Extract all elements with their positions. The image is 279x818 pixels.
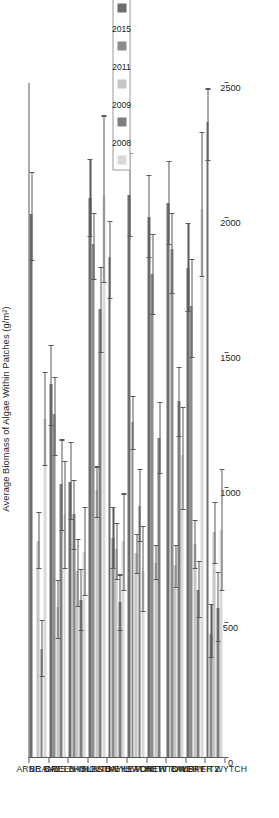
error-bar xyxy=(93,213,94,281)
error-bar-cap xyxy=(117,574,122,575)
legend-label: 2008 xyxy=(111,138,130,148)
error-bar xyxy=(155,545,156,580)
error-bar-cap xyxy=(134,573,139,574)
plot-area: 05001000150020002500 ARNE BAYBRANDS BAYG… xyxy=(28,83,224,758)
bar-group: HOLES BAY xyxy=(87,83,107,758)
error-bar-cap xyxy=(140,526,145,527)
error-bar-cap xyxy=(219,469,224,470)
bar xyxy=(177,401,180,757)
error-bar-cap xyxy=(212,502,217,503)
bar xyxy=(166,204,169,758)
bar xyxy=(186,268,189,757)
legend-label: 2011 xyxy=(112,62,130,72)
error-bar xyxy=(70,442,71,520)
error-bar-cap xyxy=(176,436,181,437)
error-bar xyxy=(89,159,90,237)
error-bar-cap xyxy=(82,595,87,596)
error-bar xyxy=(80,569,81,631)
bar xyxy=(189,306,192,757)
category-separator xyxy=(48,758,49,763)
bar xyxy=(52,414,55,757)
error-bar xyxy=(221,469,222,591)
error-bar-cap xyxy=(29,172,34,173)
bar-group: NEWTON BAY xyxy=(165,83,185,758)
error-bar-cap xyxy=(166,161,171,162)
bar xyxy=(72,514,75,757)
error-bar-cap xyxy=(91,213,96,214)
error-bar xyxy=(50,345,51,426)
error-bar xyxy=(77,539,78,607)
error-bar-cap xyxy=(39,620,44,621)
error-bar xyxy=(31,172,32,261)
rotated-figure: Average Biomass of Algae Within Patches … xyxy=(0,0,279,818)
error-bar-cap xyxy=(62,568,67,569)
error-bar xyxy=(175,545,176,588)
legend-swatch xyxy=(117,155,126,164)
error-bar xyxy=(207,88,208,161)
bar xyxy=(91,244,94,757)
value-axis-title: Average Biomass of Algae Within Patches … xyxy=(0,0,10,818)
legend-swatch xyxy=(117,42,126,51)
error-bar-cap xyxy=(185,311,190,312)
error-bar xyxy=(109,221,110,299)
error-bar-cap xyxy=(153,545,158,546)
bar xyxy=(138,506,141,757)
error-bar xyxy=(201,132,202,278)
bar-group: HOLTON HEATH xyxy=(106,83,126,758)
error-bar-cap xyxy=(68,519,73,520)
error-bar-cap xyxy=(101,115,106,116)
error-bar xyxy=(168,161,169,245)
axis-tick-label: 500 xyxy=(222,623,237,633)
error-bar-cap xyxy=(87,159,92,160)
error-bar-cap xyxy=(121,590,126,591)
error-bar xyxy=(41,620,42,677)
error-bar-cap xyxy=(166,244,171,245)
error-bar-cap xyxy=(199,132,204,133)
error-bar-cap xyxy=(94,517,99,518)
error-bar-cap xyxy=(82,507,87,508)
bar-group: BRANDS BAY xyxy=(48,83,68,758)
error-bar xyxy=(182,407,183,510)
error-bar xyxy=(103,115,104,282)
error-bar-cap xyxy=(59,530,64,531)
bar xyxy=(134,553,137,757)
error-bar-cap xyxy=(75,606,80,607)
legend-swatch xyxy=(117,79,126,88)
legend-item: 2015 xyxy=(116,20,126,51)
error-bar xyxy=(187,223,188,312)
error-bar-cap xyxy=(173,545,178,546)
category-separator xyxy=(165,758,166,763)
category-separator xyxy=(106,758,107,763)
error-bar-cap xyxy=(71,549,76,550)
error-bar-cap xyxy=(110,507,115,508)
category-separator xyxy=(87,758,88,763)
bar-group: GREEN ISLAND xyxy=(67,83,87,758)
error-bar-cap xyxy=(196,617,201,618)
error-bar-cap xyxy=(137,541,142,542)
category-separator xyxy=(67,758,68,763)
bar xyxy=(49,384,52,757)
bar xyxy=(206,123,209,758)
error-bar xyxy=(191,259,192,359)
error-bar-cap xyxy=(121,493,126,494)
bar-group: OWER FITZ xyxy=(185,83,205,758)
bar-group: UPPER WYTCH xyxy=(204,83,224,758)
legend-label: 2009 xyxy=(111,100,130,110)
error-bar-cap xyxy=(62,461,67,462)
bar xyxy=(150,274,153,757)
error-bar-cap xyxy=(192,520,197,521)
error-bar xyxy=(100,267,101,353)
error-bar xyxy=(38,512,39,569)
error-bar xyxy=(96,466,97,517)
error-bar xyxy=(214,502,215,564)
error-bar xyxy=(148,175,149,259)
error-bar-cap xyxy=(107,298,112,299)
bar xyxy=(43,420,46,758)
error-bar xyxy=(198,561,199,618)
error-bar-cap xyxy=(180,407,185,408)
error-bar-cap xyxy=(87,236,92,237)
error-bar-cap xyxy=(52,455,57,456)
error-bar-cap xyxy=(130,396,135,397)
error-bar-cap xyxy=(219,590,224,591)
error-bar xyxy=(159,402,160,475)
